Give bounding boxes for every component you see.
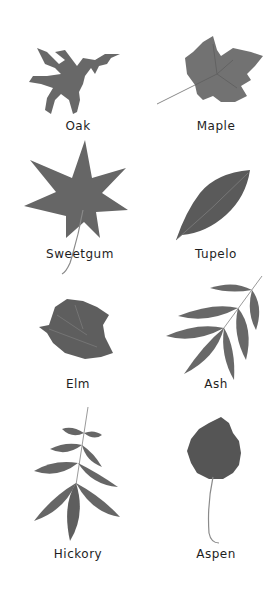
oak-leaf-icon	[25, 42, 125, 122]
ash-leaf-icon	[164, 272, 266, 382]
oak-label: Oak	[28, 119, 128, 133]
maple-label: Maple	[166, 119, 266, 133]
elm-label: Elm	[28, 377, 128, 391]
maple-leaf-icon	[155, 30, 270, 110]
elm-leaf-icon	[35, 295, 120, 365]
sweetgum-label: Sweetgum	[30, 247, 130, 261]
tupelo-label: Tupelo	[166, 247, 266, 261]
aspen-leaf-icon	[185, 415, 245, 550]
tupelo-leaf-icon	[172, 165, 252, 245]
hickory-leaf-icon	[32, 405, 124, 545]
hickory-label: Hickory	[28, 547, 128, 561]
aspen-label: Aspen	[166, 547, 266, 561]
ash-label: Ash	[166, 377, 266, 391]
